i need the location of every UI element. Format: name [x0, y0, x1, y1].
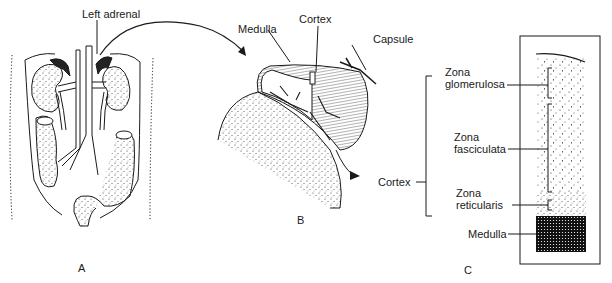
- label-b-capsule: Capsule: [373, 33, 413, 45]
- panel-c-drawing: [416, 36, 600, 264]
- label-zona-fasciculata-line2: fasciculata: [454, 143, 506, 155]
- arrow-head-c: [350, 171, 360, 180]
- label-c-medulla: Medulla: [468, 228, 507, 240]
- panel-b-drawing: [218, 58, 376, 208]
- aorta: [86, 46, 92, 135]
- ureter-left: [100, 92, 108, 130]
- cortex-marker: [310, 72, 315, 84]
- label-b-cortex: Cortex: [299, 13, 331, 25]
- descending-colon: [74, 133, 135, 226]
- label-zona-glomerulosa-line1: Zona: [445, 66, 470, 78]
- body-outline-left: [10, 55, 12, 220]
- capsule-b-pointer: [352, 45, 366, 70]
- zone-reticularis-fill: [536, 192, 586, 216]
- panel-label-c: C: [464, 264, 472, 276]
- zone-glomerulosa-fill: [536, 58, 586, 100]
- label-zona-reticularis-line1: Zona: [456, 187, 481, 199]
- colon-end-left: [116, 131, 132, 139]
- panel-label-a: A: [78, 262, 85, 274]
- label-zona-reticularis-line2: reticularis: [456, 199, 503, 211]
- panel-a-drawing: [10, 46, 153, 226]
- zone-medulla-fill: [536, 216, 586, 252]
- arrow-to-panel-b: [100, 22, 244, 55]
- panel-label-b: B: [297, 214, 304, 226]
- vena-cava: [76, 50, 80, 148]
- ascending-colon: [36, 116, 58, 187]
- zone-fasciculata-fill: [536, 100, 586, 192]
- iliac-arteries: [58, 135, 98, 175]
- renal-veins: [58, 82, 106, 92]
- label-left-adrenal: Left adrenal: [82, 8, 140, 20]
- body-outline-right: [150, 58, 153, 220]
- cortex-bracket: [416, 76, 432, 216]
- colon-end-right: [37, 117, 53, 125]
- kidney-left: [103, 67, 130, 111]
- label-zona-fasciculata-line1: Zona: [454, 131, 479, 143]
- adrenal-diagram: [0, 0, 612, 283]
- label-zona-glomerulosa-line2: glomerulosa: [445, 78, 505, 90]
- label-b-medulla: Medulla: [238, 23, 277, 35]
- label-c-cortex: Cortex: [378, 176, 410, 188]
